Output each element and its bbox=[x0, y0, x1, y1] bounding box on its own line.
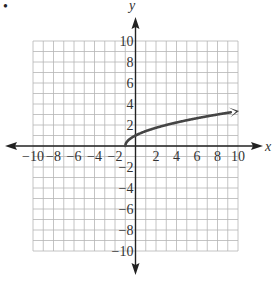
axes bbox=[5, 17, 263, 275]
y-tick-label: 8 bbox=[127, 55, 134, 70]
problem-bullet: • bbox=[3, 0, 8, 14]
x-tick-label: −8 bbox=[46, 149, 61, 164]
y-tick-label: −10 bbox=[112, 244, 134, 259]
y-tick-label: −8 bbox=[119, 223, 134, 238]
y-tick-label: −6 bbox=[119, 202, 134, 217]
function-curve bbox=[125, 108, 239, 146]
y-tick-label: 10 bbox=[120, 34, 134, 49]
y-tick-label: −4 bbox=[119, 181, 134, 196]
x-tick-label: −10 bbox=[22, 149, 44, 164]
y-tick-label: 4 bbox=[127, 97, 134, 112]
y-tick-label: −2 bbox=[119, 160, 134, 175]
y-tick-label: 6 bbox=[127, 76, 134, 91]
x-tick-label: 2 bbox=[153, 149, 160, 164]
x-tick-label: −6 bbox=[67, 149, 82, 164]
x-axis-label: x bbox=[264, 139, 272, 154]
x-tick-label: 8 bbox=[214, 149, 221, 164]
y-axis-label: y bbox=[127, 0, 136, 13]
x-tick-label: −4 bbox=[87, 149, 102, 164]
x-tick-label: 10 bbox=[231, 149, 245, 164]
x-tick-label: 4 bbox=[173, 149, 180, 164]
y-tick-label: 2 bbox=[127, 118, 134, 133]
x-tick-label: 6 bbox=[194, 149, 201, 164]
coordinate-plane: • −10−8−6−4−2246810 108642−2−4−6−8−10 x … bbox=[0, 0, 276, 282]
